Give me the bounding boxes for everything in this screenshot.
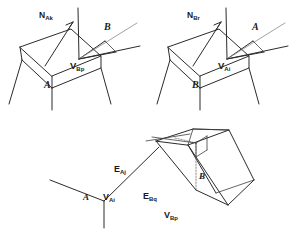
panel-bottom-geometry: [0, 0, 305, 242]
label-solid-a-bottom: A: [83, 193, 89, 202]
figure-root: NAk B VBp A NB: [0, 0, 305, 242]
solid-b-prism: [156, 129, 254, 205]
label-vertex-ai-bottom: VAi: [103, 193, 115, 203]
label-edge-aj: EAj: [114, 165, 126, 175]
label-solid-b-bottom: B: [199, 172, 205, 181]
label-vertex-bp-bottom: VBp: [164, 211, 178, 221]
solid-a-wedge: [50, 147, 159, 228]
label-edge-bq: EBq: [143, 192, 157, 202]
edge-contact-lines: [146, 134, 196, 143]
